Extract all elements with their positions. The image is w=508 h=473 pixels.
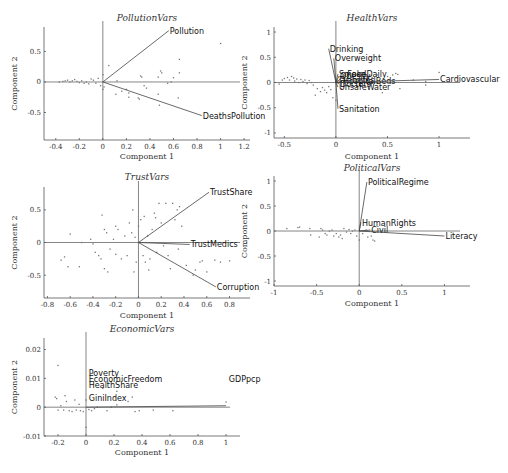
x-tick-label: 0.6: [164, 439, 176, 447]
data-point: [74, 399, 75, 400]
data-point: [371, 235, 372, 236]
y-tick-label: 0: [37, 404, 41, 412]
data-point: [320, 228, 321, 229]
data-point: [315, 95, 316, 96]
data-point: [103, 86, 104, 87]
data-point: [438, 72, 439, 73]
variable-label: HealthShare: [89, 381, 138, 390]
data-point: [129, 222, 130, 223]
data-point: [100, 258, 101, 259]
data-point: [374, 240, 375, 241]
data-point: [174, 219, 175, 220]
data-point: [102, 74, 103, 75]
x-tick-label: 1: [442, 289, 446, 297]
data-point: [134, 411, 135, 412]
data-point: [90, 239, 91, 240]
x-tick-label: -0.4: [49, 143, 63, 151]
data-point: [139, 410, 140, 411]
data-point: [178, 97, 179, 98]
data-point: [116, 80, 117, 81]
data-point: [181, 226, 182, 227]
x-tick-label: 0.2: [156, 301, 167, 309]
loading-vector: [103, 31, 169, 82]
x-axis-label: Component 1: [120, 152, 174, 161]
data-point: [90, 78, 91, 79]
data-point: [372, 239, 373, 240]
y-axis-label: Component 2: [10, 56, 19, 110]
data-point: [76, 81, 77, 82]
data-point: [350, 233, 351, 234]
data-point: [220, 261, 221, 262]
data-point: [78, 404, 79, 405]
data-point: [115, 226, 116, 227]
data-point: [79, 266, 80, 267]
data-point: [172, 203, 173, 204]
variable-label: TrustMedics: [190, 240, 238, 249]
data-point: [138, 97, 139, 98]
data-point: [300, 79, 301, 80]
x-tick-label: -0.2: [109, 301, 123, 309]
data-point: [81, 80, 82, 81]
y-tick-label: 1: [267, 29, 271, 37]
data-point: [332, 97, 333, 98]
data-point: [352, 230, 353, 231]
y-tick-label: 1: [267, 178, 271, 186]
data-point: [167, 83, 168, 84]
x-tick-label: 0: [84, 439, 88, 447]
data-point: [148, 269, 149, 270]
data-point: [115, 94, 116, 95]
data-point: [139, 98, 140, 99]
data-point: [195, 269, 196, 270]
data-point: [108, 65, 109, 66]
data-point: [140, 219, 141, 220]
data-point: [67, 266, 68, 267]
data-point: [392, 74, 393, 75]
pca-biplot-figure: PollutionVars-0.4-0.200.20.40.60.811.2-0…: [0, 0, 508, 473]
data-point: [138, 226, 139, 227]
loading-vector: [138, 192, 209, 242]
data-point: [306, 83, 307, 84]
variable-label: HumanRights: [362, 219, 416, 228]
data-point: [325, 233, 326, 234]
data-point: [343, 228, 344, 229]
y-tick-label: 0: [37, 78, 41, 86]
x-tick-label: -0.6: [63, 301, 77, 309]
y-tick-label: -0.5: [28, 109, 42, 117]
x-tick-label: -0.8: [41, 301, 55, 309]
data-point: [94, 408, 95, 409]
data-point: [158, 203, 159, 204]
y-tick-label: 0.02: [25, 346, 41, 354]
variable-label: Literacy: [445, 232, 477, 241]
data-point: [313, 84, 314, 85]
variable-label: Sanitation: [339, 105, 380, 114]
x-tick-label: 1: [218, 143, 222, 151]
data-point: [131, 232, 132, 233]
data-point: [80, 410, 81, 411]
y-tick-label: -0.01: [23, 433, 41, 441]
data-point: [116, 391, 117, 392]
data-point: [102, 89, 103, 90]
y-axis-label: Component 2: [10, 360, 19, 414]
variable-label: Overweight: [335, 54, 381, 63]
variable-label: PoliticalRegime: [368, 178, 429, 187]
data-point: [206, 271, 207, 272]
x-tick-label: 0.2: [108, 439, 119, 447]
y-tick-label: 0: [37, 239, 41, 247]
data-point: [342, 238, 343, 239]
data-point: [145, 261, 146, 262]
y-tick-label: 0.5: [260, 203, 271, 211]
data-point: [121, 258, 122, 259]
data-point: [322, 87, 323, 88]
data-point: [279, 83, 280, 84]
x-tick-label: -0.5: [278, 141, 292, 149]
data-point: [286, 228, 287, 229]
chart-title: PollutionVars: [116, 13, 178, 23]
variable-label: TrustShare: [209, 188, 253, 197]
loading-vector: [103, 82, 202, 116]
variable-label: Drinking: [330, 45, 364, 54]
data-point: [359, 239, 360, 240]
health-vars-panel: HealthVars-0.500.51-1-0.500.51Component …: [240, 13, 500, 161]
y-axis-label: Component 2: [240, 55, 249, 109]
x-tick-label: 0.5: [396, 289, 407, 297]
data-point: [81, 242, 82, 243]
